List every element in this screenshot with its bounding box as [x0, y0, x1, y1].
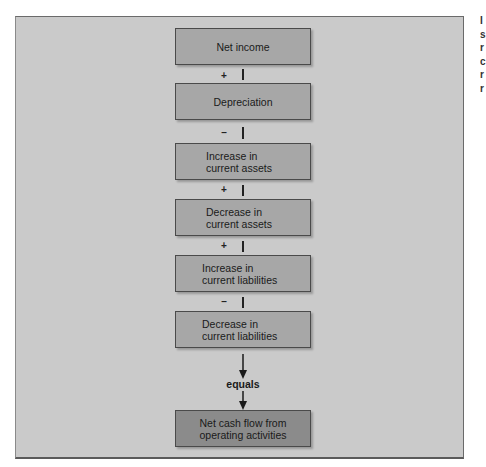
operator-plus: + [218, 71, 230, 81]
operator-minus: – [218, 297, 230, 307]
result-net-cash-flow: Net cash flow from operating activities [175, 410, 311, 447]
result-label-line-2: operating activities [200, 429, 287, 441]
step-decrease-current-liabilities: Decrease in current liabilities [175, 311, 311, 348]
operator-plus: + [218, 185, 230, 195]
step-net-income: Net income [175, 28, 311, 65]
cropped-side-text: I s r c r r [480, 14, 486, 95]
result-label-line-1: Net cash flow from [200, 417, 287, 429]
arrow-down-icon [237, 391, 249, 411]
step-label: Net income [216, 41, 269, 53]
step-label-line-2: current liabilities [202, 330, 277, 342]
cropped-char: r [480, 41, 486, 55]
equals-label: equals [212, 378, 274, 390]
step-label-line-1: Increase in [202, 262, 277, 274]
step-label: Depreciation [214, 96, 273, 108]
step-depreciation: Depreciation [175, 83, 311, 120]
cropped-char: I [480, 14, 486, 28]
step-label-line-1: Decrease in [202, 318, 277, 330]
step-increase-current-assets: Increase in current assets [175, 143, 311, 180]
step-label-line-1: Increase in [206, 150, 272, 162]
step-label-line-1: Decrease in [206, 206, 272, 218]
step-increase-current-liabilities: Increase in current liabilities [175, 255, 311, 292]
cropped-char: r [480, 82, 486, 96]
connector-line [242, 127, 244, 139]
step-label-line-2: current assets [206, 162, 272, 174]
step-label-line-2: current assets [206, 218, 272, 230]
step-label-line-2: current liabilities [202, 274, 277, 286]
arrow-down-icon [237, 354, 249, 380]
connector-line [242, 297, 244, 308]
connector-line [242, 185, 244, 196]
cropped-char: s [480, 28, 486, 42]
cropped-char: r [480, 68, 486, 82]
connector-line [242, 69, 244, 80]
step-decrease-current-assets: Decrease in current assets [175, 199, 311, 236]
cropped-char: c [480, 55, 486, 69]
connector-line [242, 241, 244, 252]
operator-minus: – [218, 128, 230, 138]
operator-plus: + [218, 241, 230, 251]
